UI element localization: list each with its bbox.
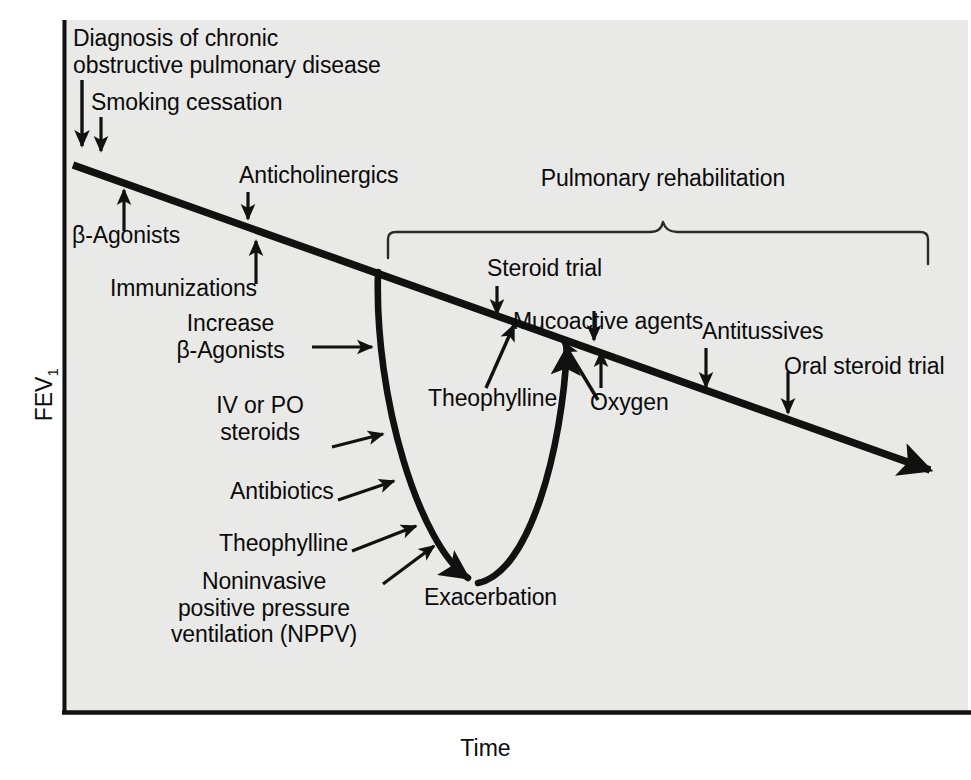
- label-immunizations: Immunizations: [110, 275, 257, 302]
- label-iv-or-po-steroids: IV or PO steroids: [195, 392, 325, 445]
- label-anticholinergics: Anticholinergics: [239, 162, 398, 189]
- label-steroid-trial: Steroid trial: [487, 255, 602, 282]
- label-mucoactive-agents: Mucoactive agents: [513, 308, 703, 335]
- copd-fev1-diagram: Diagnosis of chronic obstructive pulmona…: [0, 0, 971, 780]
- y-axis-label-subscript: 1: [44, 368, 61, 376]
- label-antibiotics: Antibiotics: [230, 478, 334, 505]
- label-exacerbation: Exacerbation: [424, 584, 557, 611]
- label-pulmonary-rehabilitation: Pulmonary rehabilitation: [528, 165, 798, 192]
- label-theophylline-center: Theophylline: [428, 385, 557, 412]
- label-antitussives: Antitussives: [702, 318, 824, 345]
- y-axis-label-text: FEV: [31, 377, 57, 422]
- label-increase-beta-agonists: Increase β-Agonists: [153, 310, 308, 363]
- label-smoking-cessation: Smoking cessation: [91, 89, 282, 116]
- label-oral-steroid-trial: Oral steroid trial: [784, 353, 945, 380]
- label-nppv: Noninvasive positive pressure ventilatio…: [148, 568, 380, 648]
- label-diagnosis: Diagnosis of chronic obstructive pulmona…: [73, 25, 381, 78]
- label-beta-agonists: β-Agonists: [72, 222, 180, 249]
- y-axis-label: FEV1: [31, 335, 61, 455]
- label-theophylline-left: Theophylline: [219, 530, 348, 557]
- x-axis-label: Time: [0, 735, 971, 762]
- label-oxygen: Oxygen: [590, 389, 669, 416]
